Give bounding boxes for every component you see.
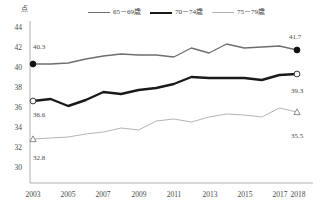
data-point-marker [294, 71, 300, 77]
data-point-marker [30, 98, 36, 104]
chart-axes [30, 21, 313, 183]
chart-container: 点 65－69歳 70－74歳 75－79歳 44 42 40 38 36 34… [0, 0, 321, 205]
series-line-75-79 [33, 108, 297, 139]
data-point-marker [30, 61, 36, 67]
series-markers [30, 47, 300, 142]
data-point-marker [294, 47, 300, 53]
series-line-70-74 [33, 74, 297, 106]
chart-plot-area [0, 0, 321, 205]
series-line-65-69 [33, 44, 297, 64]
